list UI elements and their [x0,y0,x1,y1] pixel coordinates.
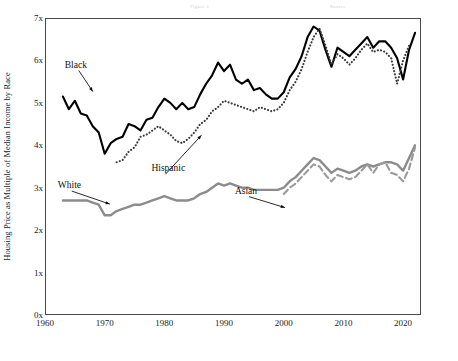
x-tick-label: 1960 [25,318,65,328]
faint-header-center: Figure 1 [190,4,209,9]
y-tick-label: 4x [21,140,43,150]
x-tick-label: 2000 [264,318,304,328]
y-tick-label: 2x [21,225,43,235]
housing-price-chart: Figure 1 Source Housing Price as Multipl… [0,0,458,361]
y-tick-label: 1x [21,268,43,278]
x-tick-label: 1970 [85,318,125,328]
series-line-asian [284,147,415,194]
x-tick-label: 1990 [204,318,244,328]
y-axis-ticks: 0x1x2x3x4x5x6x7x [17,18,43,315]
x-tick-label: 2010 [323,318,363,328]
series-line-hispanic [117,29,409,163]
series-line-black [63,26,415,153]
x-tick-label: 1980 [144,318,184,328]
y-tick-label: 7x [21,13,43,23]
series-line-white [63,145,415,215]
faint-header-right: Source [330,4,346,9]
x-axis-ticks: 1960197019801990200020102020 [45,316,421,334]
y-axis-label: Housing Price as Multiple of Median Inco… [2,18,18,315]
y-tick-label: 6x [21,55,43,65]
annotation-asian: Asian [235,186,257,196]
y-tick-label: 3x [21,183,43,193]
plot-series-layer [45,18,421,315]
annotation-hispanic: Hispanic [151,163,185,173]
x-tick-label: 2020 [383,318,423,328]
annotation-black: Black [65,60,87,70]
annotation-white: White [58,180,81,190]
y-tick-label: 5x [21,98,43,108]
